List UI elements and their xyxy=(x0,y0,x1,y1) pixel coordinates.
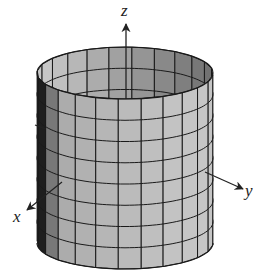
x-axis-label: x xyxy=(12,207,21,226)
cylinder-diagram: z x y xyxy=(0,0,259,271)
z-axis-label: z xyxy=(120,1,128,20)
y-axis-label: y xyxy=(243,181,253,200)
